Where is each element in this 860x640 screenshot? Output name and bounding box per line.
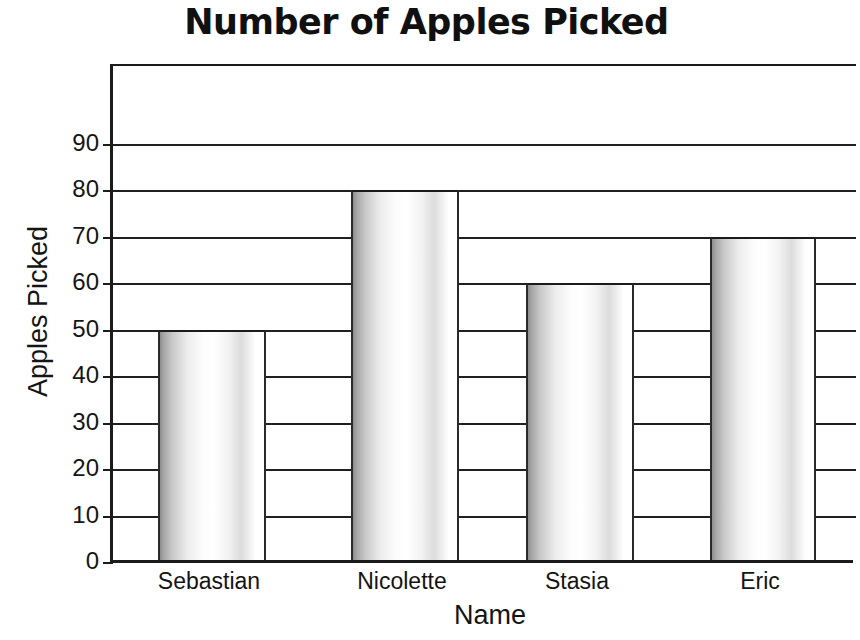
y-axis-tick-mark [103,283,113,285]
y-axis-tick-mark [103,376,113,378]
y-axis-tick-mark [103,469,113,471]
y-axis-tick-label: 20 [72,454,99,482]
y-axis-tick-mark [103,144,113,146]
y-axis-tick-mark [103,237,113,239]
bar [351,190,459,562]
y-axis-tick-label: 40 [72,361,99,389]
y-axis-tick-label: 30 [72,408,99,436]
chart-title: Number of Apples Picked [0,2,853,42]
gridline [113,144,856,146]
y-axis-tick-mark [103,330,113,332]
y-axis-tick-label: 60 [72,268,99,296]
x-axis-tick-label: Stasia [493,568,661,595]
bar [526,283,634,562]
y-axis-tick-mark [103,516,113,518]
y-axis-tick-mark [103,423,113,425]
x-axis-tick-label: Sebastian [125,568,293,595]
x-axis-line [110,560,853,563]
y-axis-title: Apples Picked [23,182,54,442]
y-axis-tick-mark [103,190,113,192]
y-axis-tick-label: 80 [72,175,99,203]
x-axis-tick-label: Eric [677,568,843,595]
y-axis-tick-label: 70 [72,222,99,250]
y-axis-tick-label: 0 [86,547,99,575]
bar [710,237,816,563]
y-axis-tick-label: 50 [72,315,99,343]
gridline [113,190,856,192]
x-axis-tick-label: Nicolette [318,568,486,595]
y-axis-tick-label: 90 [72,129,99,157]
y-axis-tick-label: 10 [72,501,99,529]
plot-area: 9080706050403020100 [110,64,856,562]
bar [158,330,266,563]
x-axis-title: Name [110,600,860,631]
